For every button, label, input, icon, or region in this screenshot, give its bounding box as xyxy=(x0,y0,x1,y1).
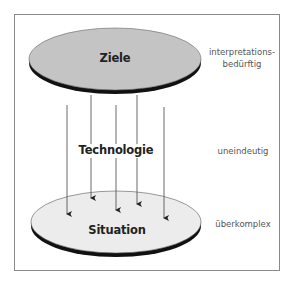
annotation-middle: uneindeutig xyxy=(212,145,274,157)
technology-label: Technologie xyxy=(76,143,156,157)
top-disc-label: Ziele xyxy=(90,51,140,65)
bottom-disc-label: Situation xyxy=(82,223,152,237)
annotation-top: interpretations- bedürftig xyxy=(208,46,276,70)
annotation-top-line1: interpretations- xyxy=(208,46,276,58)
annotation-top-line2: bedürftig xyxy=(208,58,276,70)
annotation-bottom: überkomplex xyxy=(212,218,274,230)
